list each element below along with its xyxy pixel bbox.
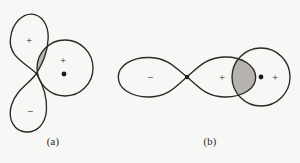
sign-p-lobe-bottom-a: − bbox=[27, 105, 33, 117]
panel-caption-b: (b) bbox=[190, 136, 230, 147]
figure-container: + − + − + + (a) (b) bbox=[0, 0, 300, 163]
sign-s-orbital-b: + bbox=[272, 71, 278, 83]
panel-caption-a: (a) bbox=[33, 136, 73, 147]
nucleus-dot-a bbox=[62, 72, 67, 77]
sign-s-orbital-a: + bbox=[60, 54, 66, 66]
sign-p-lobe-top-a: + bbox=[26, 34, 32, 46]
sign-p-lobe-left-b: − bbox=[147, 71, 153, 83]
nucleus-dot-b bbox=[259, 75, 264, 80]
p-orbital-node-b bbox=[185, 75, 189, 79]
sign-p-lobe-right-b: + bbox=[219, 71, 225, 83]
